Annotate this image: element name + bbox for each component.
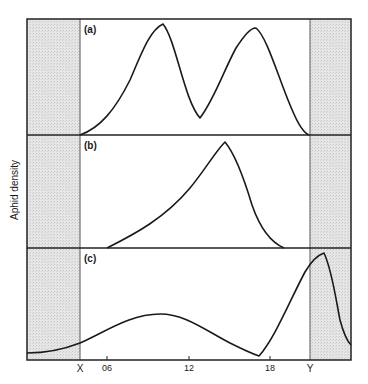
x-axis-label-12: 12 xyxy=(184,363,194,373)
y-axis-label: Aphid density xyxy=(9,160,20,220)
aphid-density-chart: (a) (b) (c) X 06 12 18 Y Aphid density xyxy=(0,0,368,384)
shaded-region-left xyxy=(27,19,80,360)
x-axis-label-06: 06 xyxy=(102,363,112,373)
x-axis-label-18: 18 xyxy=(265,363,275,373)
shaded-region-right xyxy=(310,19,351,360)
panel-label-a: (a) xyxy=(84,24,96,35)
x-axis-label-x: X xyxy=(77,363,84,374)
curve-panel-a xyxy=(80,24,309,135)
curve-panel-b xyxy=(107,142,284,248)
x-axis-label-y: Y xyxy=(307,363,314,374)
panel-label-c: (c) xyxy=(84,253,96,264)
panel-label-b: (b) xyxy=(84,140,97,151)
